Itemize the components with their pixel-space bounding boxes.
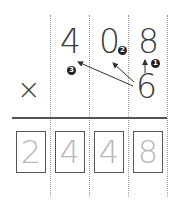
- step-badge-1: 1: [151, 59, 160, 68]
- result-box-tens[interactable]: 4: [94, 131, 124, 173]
- result-digit: 4: [99, 136, 119, 168]
- result-digit: 4: [60, 136, 80, 168]
- result-box-ones[interactable]: 8: [133, 131, 163, 173]
- result-digit: 2: [21, 136, 41, 168]
- step-badge-3: 3: [67, 66, 76, 75]
- result-box-thousands[interactable]: 2: [16, 131, 46, 173]
- result-digit: 8: [138, 136, 158, 168]
- sum-line: [12, 117, 167, 119]
- step-badge-2: 2: [118, 46, 127, 55]
- result-box-hundreds[interactable]: 4: [55, 131, 85, 173]
